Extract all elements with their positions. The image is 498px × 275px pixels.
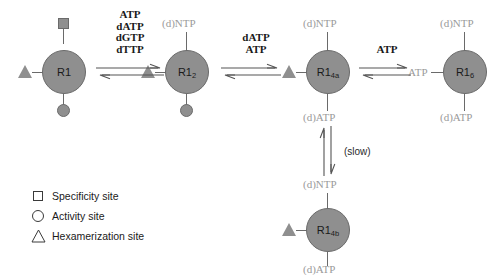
activity-site-r1 (57, 104, 70, 117)
node-r1_6[interactable]: R16 (443, 50, 487, 94)
circle-icon (30, 208, 52, 224)
node-r1[interactable]: R1 (42, 50, 86, 94)
ligand-r1_4b-bottom: (d)ATP (303, 264, 335, 275)
node-r1_2[interactable]: R12 (165, 50, 209, 94)
specificity-site-r1 (58, 18, 69, 29)
node-r1_4a[interactable]: R14a (306, 50, 350, 94)
node-r1_2-label: R12 (178, 67, 196, 78)
activity-site-r1_2 (180, 104, 193, 117)
reaction-1-line-1: ATP (97, 9, 163, 21)
ligand-r1_6-bottom: (d)ATP (440, 112, 472, 123)
reaction-1-label: ATP dATP dGTP dTTP (97, 9, 163, 55)
stem-r1_6-top (464, 32, 465, 51)
ligand-r1_6-top: (d)NTP (440, 18, 474, 29)
ligand-r1_4a-bottom: (d)ATP (303, 112, 335, 123)
stem-r1_6-bottom (464, 94, 465, 111)
stem-r1-top (63, 28, 64, 44)
node-r1-label: R1 (57, 67, 71, 78)
legend: Specificity site Activity site Hexameriz… (30, 186, 230, 246)
legend-item-hexamerization: Hexamerization site (30, 226, 230, 246)
diagram-canvas: R1 (d)NTP R12 (d)NTP (d)ATP R14a (d)NTP … (0, 0, 498, 275)
reaction-1-line-4: dTTP (97, 44, 163, 56)
reaction-3-label: ATP (368, 44, 406, 56)
ligand-r1_2-top: (d)NTP (162, 18, 196, 29)
stem-r1_2-top (186, 32, 187, 51)
legend-label-hexamerization: Hexamerization site (52, 230, 144, 242)
stem-r1_6-left (431, 72, 443, 73)
hexamerization-site-r1_4a (282, 65, 296, 78)
equilibrium-arrow-3 (359, 62, 411, 82)
node-r1_4a-label: R14a (317, 67, 339, 78)
ligand-r1_4a-top: (d)NTP (303, 18, 337, 29)
square-icon (30, 188, 52, 204)
reaction-2-line-1: dATP (227, 32, 285, 44)
reaction-1-line-3: dGTP (97, 32, 163, 44)
equilibrium-arrow-4 (318, 126, 338, 176)
node-r1_4b-label: R14b (317, 225, 339, 236)
equilibrium-arrow-1 (96, 62, 164, 82)
equilibrium-arrow-2 (221, 62, 281, 82)
reaction-3-line-1: ATP (368, 44, 406, 56)
node-r1_4b[interactable]: R14b (306, 208, 350, 252)
reaction-2-line-2: ATP (227, 44, 285, 56)
stem-r1_4a-bottom (327, 94, 328, 111)
legend-label-activity: Activity site (52, 210, 105, 222)
legend-item-specificity: Specificity site (30, 186, 230, 206)
triangle-icon (30, 228, 52, 244)
hexamerization-site-r1 (18, 65, 32, 78)
reaction-2-label: dATP ATP (227, 32, 285, 55)
stem-r1_4b-top (327, 193, 328, 209)
stem-r1_4a-top (327, 32, 328, 51)
legend-label-specificity: Specificity site (52, 190, 119, 202)
node-r1_6-label: R16 (456, 67, 474, 78)
reaction-4-label: (slow) (344, 146, 371, 157)
ligand-r1_4b-top: (d)NTP (303, 179, 337, 190)
hexamerization-site-r1_4b (282, 223, 296, 236)
legend-item-activity: Activity site (30, 206, 230, 226)
